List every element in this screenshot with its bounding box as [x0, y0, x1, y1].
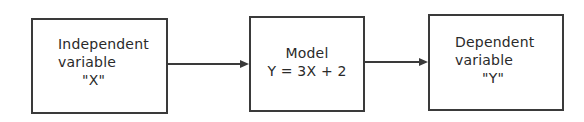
- arrow-right-icon: [240, 60, 249, 68]
- independent-variable-label: Independent variable "X": [58, 35, 168, 89]
- arrow-input-to-model-line: [168, 63, 241, 65]
- model-equation: Y = 3X + 2: [249, 62, 365, 80]
- dependent-variable-label: Dependent variable "Y": [455, 33, 565, 87]
- dependent-line-1: Dependent: [455, 33, 565, 51]
- dependent-line-3: "Y": [455, 69, 565, 87]
- independent-line-2: variable: [58, 53, 168, 71]
- arrow-right-icon: [419, 58, 428, 66]
- arrow-model-to-output-line: [365, 61, 420, 63]
- model-title: Model: [249, 44, 365, 62]
- independent-line-3: "X": [58, 71, 168, 89]
- independent-line-1: Independent: [58, 35, 168, 53]
- model-label: Model Y = 3X + 2: [249, 44, 365, 80]
- dependent-line-2: variable: [455, 51, 565, 69]
